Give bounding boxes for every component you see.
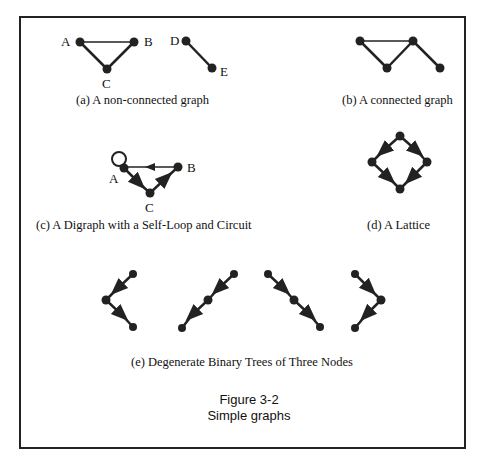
- caption-d: (d) A Lattice: [367, 218, 430, 233]
- label-c-A: A: [109, 171, 118, 187]
- graph-d: [372, 136, 427, 189]
- label-a-D: D: [170, 33, 179, 49]
- graph-c: [112, 152, 178, 193]
- caption-e: (e) Degenerate Binary Trees of Three Nod…: [131, 355, 353, 370]
- figure-caption: Figure 3-2 Simple graphs: [149, 392, 349, 424]
- caption-c: (c) A Digraph with a Self-Loop and Circu…: [36, 218, 252, 233]
- label-c-B: B: [187, 160, 196, 176]
- caption-a: (a) A non-connected graph: [76, 93, 209, 108]
- graph-nodes: [76, 37, 445, 333]
- figure-title: Simple graphs: [149, 408, 349, 424]
- graph-b: [360, 41, 440, 68]
- caption-b: (b) A connected graph: [342, 93, 453, 108]
- label-a-E: E: [220, 64, 228, 80]
- label-a-A: A: [61, 34, 70, 50]
- figure-number: Figure 3-2: [149, 392, 349, 408]
- label-c-C: C: [145, 200, 154, 216]
- graph-e: [106, 274, 381, 328]
- label-a-C: C: [102, 76, 111, 92]
- label-a-B: B: [144, 34, 153, 50]
